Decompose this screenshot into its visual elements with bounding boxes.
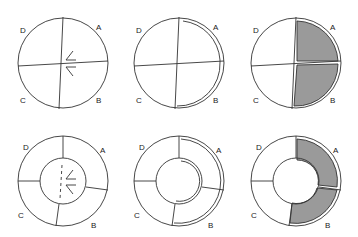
shaded-sector-b xyxy=(290,188,337,223)
label-c: C xyxy=(253,96,259,105)
label-c: C xyxy=(18,211,24,220)
highlight-arc-inner xyxy=(176,161,200,201)
label-d: D xyxy=(136,26,142,35)
symmetry-axis xyxy=(60,165,62,199)
label-c: C xyxy=(20,96,26,105)
label-b: B xyxy=(96,96,101,105)
label-d: D xyxy=(253,26,259,35)
label-d: D xyxy=(20,26,26,35)
inner-circle xyxy=(273,158,319,204)
vertical-divider xyxy=(175,17,179,109)
label-b: B xyxy=(330,96,335,105)
label-b: B xyxy=(325,221,330,230)
panel-annulus-shaded: A B C D xyxy=(251,136,341,230)
label-a: A xyxy=(330,23,336,32)
panel-circle-symmetry: A B C D xyxy=(18,17,108,109)
highlight-arc-outer xyxy=(174,139,221,223)
angle-glyph-bottom xyxy=(66,67,76,76)
panel-circle-shaded: A B C D xyxy=(251,17,341,109)
label-d: D xyxy=(139,143,145,152)
label-a: A xyxy=(100,146,106,155)
angle-glyph-top xyxy=(66,51,76,60)
label-d: D xyxy=(256,143,262,152)
shaded-sector-a xyxy=(297,139,337,187)
label-d: D xyxy=(23,143,29,152)
panel-annulus-symmetry: A B C D xyxy=(18,136,108,230)
label-b: B xyxy=(208,221,213,230)
angle-glyph-bottom xyxy=(66,185,76,194)
label-a: A xyxy=(216,146,222,155)
outer-circle xyxy=(134,18,224,108)
horizontal-divider xyxy=(18,61,108,66)
diagram-canvas: A B C D A B C D A B C D A B xyxy=(0,0,358,237)
inner-circle xyxy=(156,158,202,204)
panel-annulus-arc-highlight: A B C D xyxy=(134,136,224,230)
divider-bc xyxy=(56,204,59,226)
label-c: C xyxy=(251,211,257,220)
label-a: A xyxy=(333,146,339,155)
inner-circle xyxy=(40,158,86,204)
divider-ab xyxy=(86,187,108,190)
panel-circle-arc-highlight: A B C D xyxy=(134,17,224,109)
label-c: C xyxy=(136,96,142,105)
label-b: B xyxy=(91,221,96,230)
horizontal-divider xyxy=(134,61,224,66)
vertical-divider xyxy=(59,17,63,109)
outer-circle xyxy=(18,18,108,108)
angle-glyph-top xyxy=(66,170,76,179)
label-a: A xyxy=(213,23,219,32)
label-a: A xyxy=(96,23,102,32)
label-c: C xyxy=(134,211,140,220)
label-b: B xyxy=(213,96,218,105)
